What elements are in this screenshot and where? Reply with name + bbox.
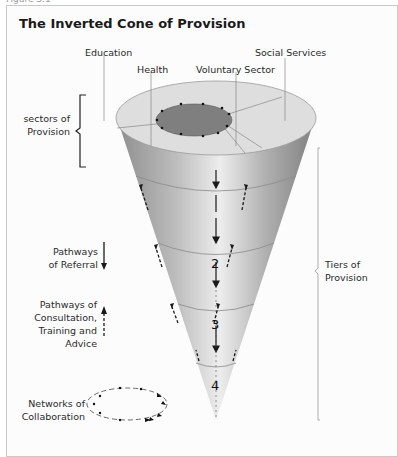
tier-number-4: 4 (211, 379, 219, 392)
sectors-of-provision-label: sectors of Provision (20, 112, 70, 138)
label-line: sectors of (20, 112, 70, 125)
sector-label-voluntary: Voluntary Sector (196, 63, 275, 76)
tiers-of-provision-label: Tiers of Provision (325, 258, 368, 284)
label-line: Networks of (20, 397, 85, 410)
label-line: of Referral (38, 258, 98, 271)
sector-label-education: Education (85, 46, 132, 59)
inner-network-ellipse (156, 104, 232, 136)
label-line: Consultation, (20, 311, 97, 324)
sector-label-health: Health (137, 63, 168, 76)
pathways-of-consultation-label: Pathways of Consultation, Training and A… (20, 298, 97, 350)
label-line: Advice (20, 337, 97, 350)
label-line: Pathways of (20, 298, 97, 311)
sectors-bracket (76, 95, 86, 167)
label-line: Provision (20, 125, 70, 138)
tier-number-2: 2 (211, 257, 219, 270)
label-line: Collaboration (20, 410, 85, 423)
label-line: Pathways (38, 245, 98, 258)
networks-of-collaboration-label: Networks of Collaboration (20, 397, 85, 423)
pathways-of-referral-label: Pathways of Referral (38, 245, 98, 271)
label-line: Training and (20, 324, 97, 337)
label-line: Provision (325, 271, 368, 284)
tiers-bracket (315, 148, 320, 420)
network-legend-ellipse (87, 388, 167, 420)
sector-label-social-services: Social Services (255, 46, 326, 59)
label-line: Tiers of (325, 258, 368, 271)
tier-number-3: 3 (211, 318, 219, 331)
